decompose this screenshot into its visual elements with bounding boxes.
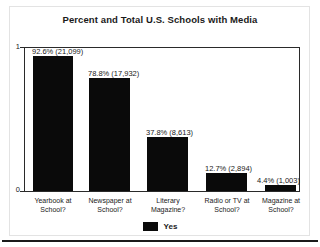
- x-axis-label-magazine: Magazine at School?: [252, 196, 310, 214]
- x-axis-label-literary-magazine: Literary Magazine?: [139, 196, 197, 214]
- x-axis-label-literary-magazine-line1: Literary: [139, 196, 197, 205]
- x-axis-label-newspaper-line1: Newspaper at: [79, 196, 141, 205]
- y-axis-tick-mark-bottom: [20, 191, 24, 192]
- bar-label-yearbook: 92.6% (21,099): [32, 47, 83, 56]
- bar-literary-magazine: [147, 137, 188, 191]
- x-axis-label-newspaper-line2: School?: [79, 205, 141, 214]
- bar-newspaper: [89, 78, 130, 191]
- bar-magazine: [265, 185, 296, 191]
- x-axis-label-radio-or-tv: Radio or TV at School?: [194, 196, 260, 214]
- chart-title: Percent and Total U.S. Schools with Medi…: [0, 14, 320, 25]
- x-axis-label-radio-or-tv-line1: Radio or TV at: [194, 196, 260, 205]
- x-axis-label-yearbook-line1: Yearbook at: [23, 196, 83, 205]
- y-axis-tick-label-top: 1: [6, 42, 20, 51]
- x-axis-label-yearbook: Yearbook at School?: [23, 196, 83, 214]
- page-bottom-rule: [2, 240, 318, 242]
- x-axis-label-yearbook-line2: School?: [23, 205, 83, 214]
- chart-page: Percent and Total U.S. Schools with Medi…: [0, 0, 320, 247]
- x-axis-label-literary-magazine-line2: Magazine?: [139, 205, 197, 214]
- legend-swatch-yes: [143, 222, 158, 231]
- y-axis-tick-mark-top: [20, 47, 24, 48]
- bar-radio-or-tv: [206, 173, 247, 191]
- x-axis-label-newspaper: Newspaper at School?: [79, 196, 141, 214]
- bar-label-newspaper: 78.8% (17,932): [88, 69, 139, 78]
- x-axis-label-radio-or-tv-line2: School?: [194, 205, 260, 214]
- x-axis-label-magazine-line1: Magazine at: [252, 196, 310, 205]
- legend-label-yes: Yes: [164, 222, 178, 231]
- bar-label-magazine: 4.4% (1,003): [257, 176, 300, 185]
- chart-legend: Yes: [0, 222, 320, 231]
- x-axis-label-magazine-line2: School?: [252, 205, 310, 214]
- y-axis-tick-label-bottom: 0: [6, 185, 20, 194]
- bar-yearbook: [33, 56, 73, 191]
- bar-label-radio-or-tv: 12.7% (2,894): [205, 164, 252, 173]
- bar-label-literary-magazine: 37.8% (8,613): [146, 128, 193, 137]
